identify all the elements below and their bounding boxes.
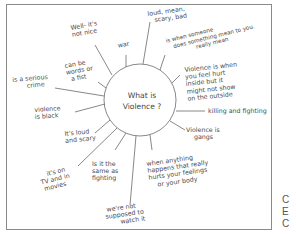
- node-text-line: Violence is: [186, 126, 220, 133]
- node-text-line: Is it the: [92, 160, 118, 167]
- margin-letter: C: [282, 194, 289, 206]
- node-text-line: same as: [92, 167, 118, 174]
- margin-letter: C: [282, 218, 289, 230]
- center-line-2: Violence ?: [118, 101, 166, 112]
- node-violence-is-black: violence is black: [34, 104, 61, 120]
- node-gangs: Violence is gangs: [186, 126, 220, 140]
- margin-letter: E: [282, 206, 289, 218]
- node-hurt-inside: Violence is when you feel hurt inside bu…: [184, 60, 240, 101]
- node-killing-fighting: killing and fighting: [208, 107, 267, 114]
- node-text-line: fighting: [92, 174, 118, 181]
- center-question: What is Violence ?: [118, 90, 166, 112]
- node-text-line: killing and fighting: [208, 107, 267, 114]
- node-serious-crime: is a serious crime: [12, 73, 49, 90]
- node-same-as-fighting: Is it the same as fighting: [92, 160, 118, 182]
- center-line-1: What is: [118, 90, 166, 101]
- node-text-line: gangs: [186, 133, 220, 140]
